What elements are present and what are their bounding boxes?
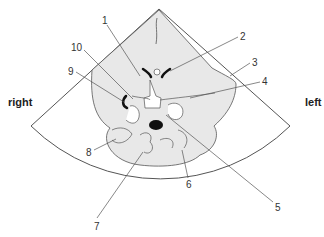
label-5: 5 <box>275 203 281 213</box>
label-3: 3 <box>252 58 258 68</box>
fourth-ventricle <box>149 120 163 130</box>
ultrasound-diagram: right left 1 2 3 4 5 6 7 8 9 10 <box>0 0 324 237</box>
label-10: 10 <box>71 43 82 53</box>
label-4: 4 <box>262 77 268 87</box>
label-8: 8 <box>86 148 92 158</box>
label-7: 7 <box>94 222 100 232</box>
orientation-right-label: right <box>8 97 32 108</box>
orientation-left-label: left <box>305 97 322 108</box>
brain-outline <box>92 10 236 166</box>
label-9: 9 <box>68 67 74 77</box>
label-6: 6 <box>186 180 192 190</box>
label-2: 2 <box>240 32 246 42</box>
label-1: 1 <box>102 16 108 26</box>
